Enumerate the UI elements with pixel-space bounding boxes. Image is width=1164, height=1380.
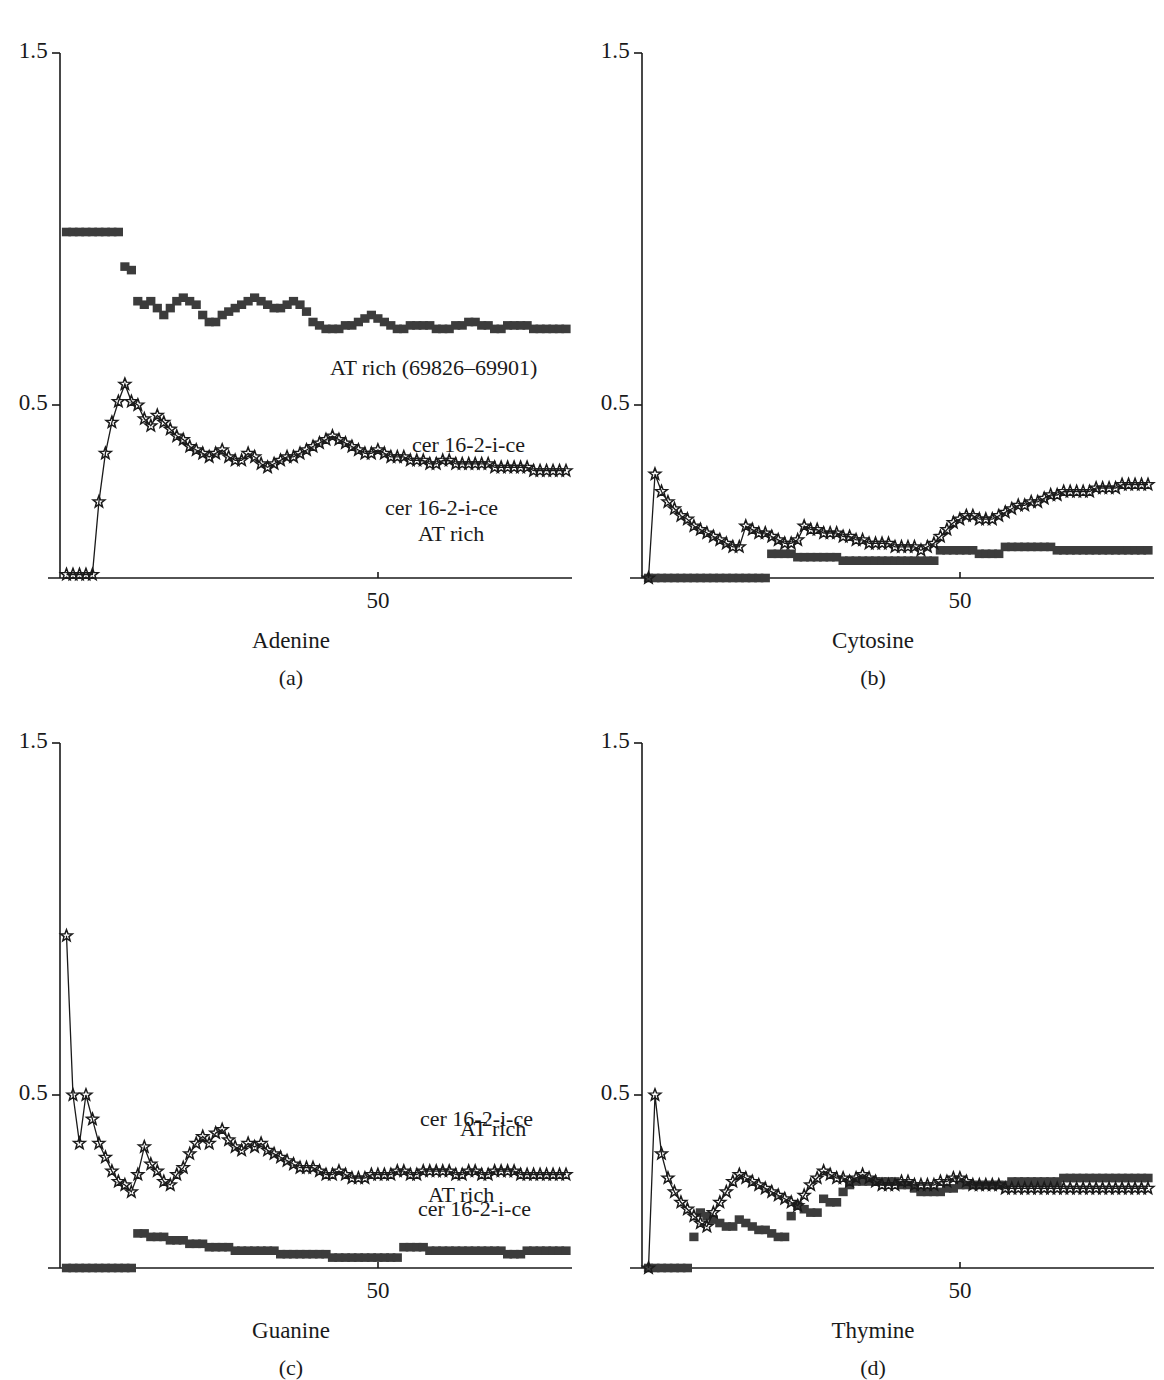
y-tick-label-0-5: 0.5 [4,390,48,416]
plot-area-b [582,0,1164,600]
y-tick-label-1-5: 1.5 [586,38,630,64]
square-marker [114,228,123,237]
x-tick-label-50: 50 [930,1278,990,1304]
chart-panel-c: 1.50.550Guanine(c)AT richcer 16-2-i-ce [0,690,582,1380]
y-tick-label-1-5: 1.5 [586,728,630,754]
series-at-rich [62,228,571,334]
y-tick-label-1-5: 1.5 [4,38,48,64]
chart-panel-a: 1.50.550Adenine(a)AT rich (69826–69901)c… [0,0,582,690]
star-marker [649,1089,661,1100]
panel-caption-a: (a) [0,665,582,691]
x-axis-title-c: Guanine [0,1318,582,1344]
chart-panel-b: 1.50.550Cytosine(b)AT richcer 16-2-i-ce [582,0,1164,690]
square-marker [1143,546,1152,555]
series-label-cer-16-2-i-ce-d: cer 16-2-i-ce [418,1196,531,1222]
star-marker [61,930,73,941]
plot-area-d [582,690,1164,1290]
series-label-at-rich-b: AT rich [418,521,484,547]
square-marker [683,1264,692,1273]
square-marker [127,1264,136,1273]
square-marker [780,1233,789,1242]
y-tick-label-0-5: 0.5 [586,1080,630,1106]
series-cer-16-2-i-ce [61,378,572,580]
square-marker [127,266,136,275]
y-tick-label-1-5: 1.5 [4,728,48,754]
square-marker [192,300,201,309]
square-marker [832,1198,841,1207]
square-marker [761,574,770,583]
x-tick-label-50: 50 [930,588,990,614]
star-marker [649,468,661,479]
panel-caption-c: (c) [0,1355,582,1380]
x-axis-title-b: Cytosine [582,628,1164,654]
panel-caption-d: (d) [582,1355,1164,1380]
panel-caption-b: (b) [582,665,1164,691]
star-marker [80,1089,92,1100]
series-at-rich [62,1229,571,1272]
square-marker [813,1208,822,1217]
square-marker [561,325,570,334]
series-label-at-rich-a: AT rich (69826–69901) [330,355,537,381]
chart-panel-d: 1.50.550Thymine(d)AT richcer 16-2-i-ce [582,690,1164,1380]
series-label-cer-16-2-i-ce-a: cer 16-2-i-ce [385,495,498,521]
figure-root: 1.50.550Adenine(a)AT rich (69826–69901)c… [0,0,1164,1380]
y-tick-label-0-5: 0.5 [586,390,630,416]
x-axis-title-a: Adenine [0,628,582,654]
square-marker [929,556,938,565]
series-label-cer-16-2-i-ce-b: cer 16-2-i-ce [412,432,525,458]
series-label-at-rich-d: AT rich [460,1116,526,1142]
square-marker [561,1246,570,1255]
square-marker [393,1253,402,1262]
series-cer-16-2-i-ce [643,468,1154,583]
line-path [67,384,567,574]
x-axis-title-d: Thymine [582,1318,1164,1344]
x-tick-label-50: 50 [348,588,408,614]
square-marker [787,1212,796,1221]
square-marker [302,307,311,316]
square-marker [689,1233,698,1242]
x-tick-label-50: 50 [348,1278,408,1304]
line-path [67,936,567,1192]
y-tick-label-0-5: 0.5 [4,1080,48,1106]
series-cer-16-2-i-ce [61,930,572,1197]
